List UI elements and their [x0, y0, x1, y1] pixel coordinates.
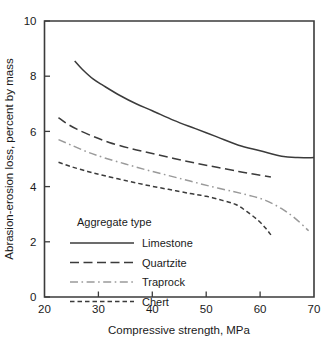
y-tick-label-10: 10: [24, 15, 37, 27]
x-tick-label-30: 30: [92, 303, 105, 315]
line-chart: 0246810 203040506070 Aggregate type Lime…: [0, 0, 331, 342]
x-tick-label-50: 50: [200, 303, 213, 315]
legend-label-limestone: Limestone: [142, 237, 193, 249]
x-tick-label-60: 60: [254, 303, 267, 315]
y-axis-title: Abrasion-erosion loss, percent by mass: [3, 58, 15, 260]
chart-figure: 0246810 203040506070 Aggregate type Lime…: [0, 0, 331, 342]
y-tick-label-8: 8: [30, 70, 36, 82]
chart-background: [0, 0, 331, 342]
y-tick-label-2: 2: [30, 236, 36, 248]
x-axis-title: Compressive strength, MPa: [108, 324, 250, 336]
y-tick-label-0: 0: [30, 291, 36, 303]
legend-label-traprock: Traprock: [142, 276, 185, 288]
legend-title: Aggregate type: [77, 216, 152, 228]
y-tick-label-4: 4: [30, 181, 37, 193]
x-tick-label-20: 20: [38, 303, 51, 315]
y-tick-label-6: 6: [30, 126, 36, 138]
legend-label-quartzite: Quartzite: [142, 257, 187, 269]
legend-label-chert: Chert: [142, 296, 169, 308]
x-tick-label-70: 70: [308, 303, 321, 315]
